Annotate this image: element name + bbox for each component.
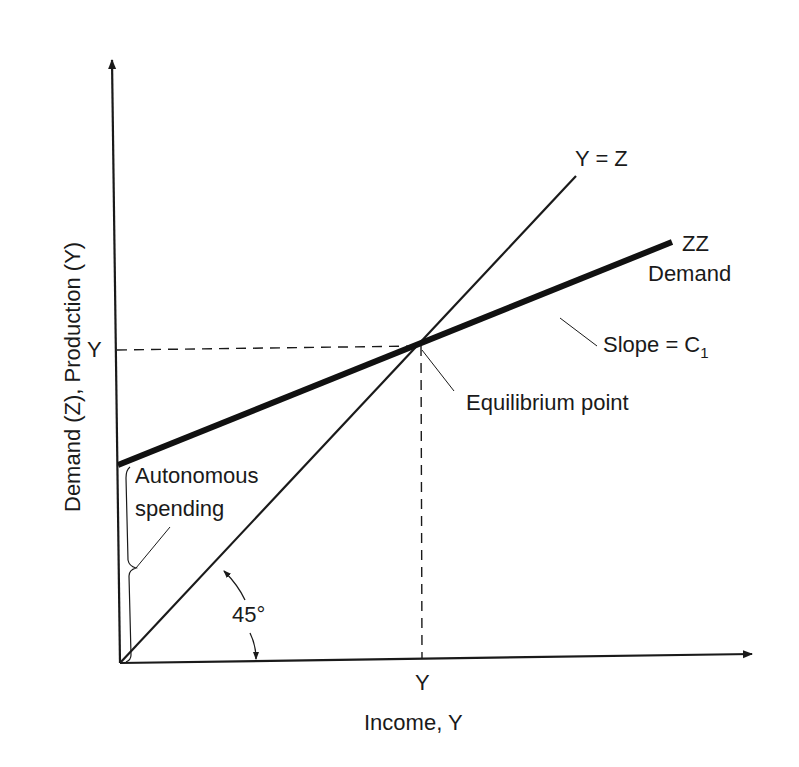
- keynesian-cross-diagram: Demand (Z), Production (Y) Y Y Income, Y…: [0, 0, 799, 767]
- y-axis-tick-label: Y: [87, 337, 102, 362]
- equilibrium-pointer: [422, 350, 454, 391]
- equilibrium-vertical-guide: [421, 346, 422, 658]
- forty-five-degree-line: [120, 176, 576, 663]
- y-axis: [112, 60, 120, 663]
- angle-arrow-lower: [250, 633, 256, 659]
- equilibrium-horizontal-guide: [117, 346, 418, 350]
- x-axis: [120, 654, 752, 663]
- autonomous-label-line2: spending: [135, 496, 224, 521]
- demand-label: Demand: [648, 261, 731, 286]
- autonomous-label-line1: Autonomous: [135, 463, 259, 488]
- zz-label: ZZ: [682, 231, 709, 256]
- autonomous-pointer: [136, 527, 170, 568]
- zz-demand-line: [118, 242, 672, 465]
- x-axis-label: Income, Y: [364, 710, 463, 735]
- y-axis-label: Demand (Z), Production (Y): [60, 242, 85, 512]
- angle-arrow-upper: [224, 571, 245, 600]
- x-axis-tick-label: Y: [415, 670, 430, 695]
- slope-label: Slope = C1: [603, 332, 709, 361]
- equilibrium-label: Equilibrium point: [466, 390, 629, 415]
- diagram-canvas: Demand (Z), Production (Y) Y Y Income, Y…: [0, 0, 799, 767]
- angle-label: 45°: [232, 602, 265, 627]
- forty-five-line-label: Y = Z: [575, 146, 628, 171]
- slope-pointer: [560, 318, 597, 346]
